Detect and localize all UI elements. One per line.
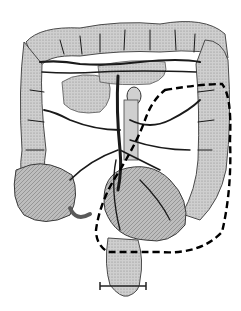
aorta — [124, 100, 138, 160]
descending-colon — [182, 40, 230, 220]
cecum — [14, 164, 75, 222]
rectum — [106, 238, 141, 296]
colon-anatomy-illustration — [0, 0, 241, 311]
